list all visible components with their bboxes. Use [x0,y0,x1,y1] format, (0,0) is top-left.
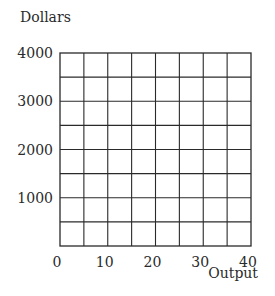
y-tick-label: 1000 [17,190,53,206]
y-tick-label: 4000 [17,45,53,61]
y-tick-labels: 1000200030004000 [17,45,53,206]
x-tick-label: 30 [191,254,209,270]
x-tick-label: 20 [144,254,162,270]
x-tick-label: 10 [96,254,114,270]
x-tick-label: 40 [239,254,257,270]
y-axis-label: Dollars [20,9,71,25]
y-tick-label: 2000 [17,142,53,158]
y-tick-label: 3000 [17,93,53,109]
x-tick-label: 0 [53,254,62,270]
grid [60,53,251,246]
chart: Dollars Output 1000200030004000 01020304… [0,0,275,296]
